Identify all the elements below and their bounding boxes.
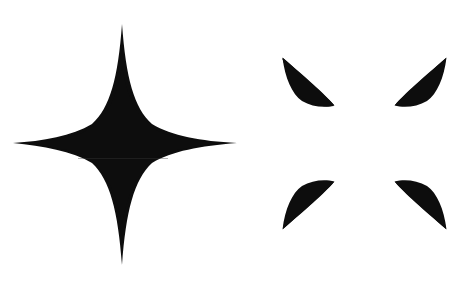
figure-svg (0, 0, 467, 289)
figure-canvas: Four-pointed star and four detached wedg… (0, 0, 467, 289)
